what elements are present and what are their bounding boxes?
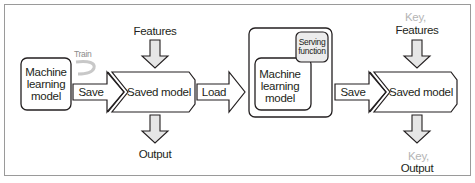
save-label-right: Save [336,86,370,98]
features-arrow-down-left [142,40,168,68]
ml-model-label-left: Machine learning model [21,66,71,102]
output-label-right: Output [387,162,447,174]
save-label-left: Save [74,86,108,98]
features-key-label: Key, [405,11,435,23]
train-label: Train [74,48,92,60]
features-label-left: Features [125,25,185,37]
train-arc-icon [76,62,94,74]
output-key-label: Key, [408,150,438,162]
load-label: Load [198,86,230,98]
output-arrow-down-left [142,115,168,143]
output-arrow-down-right [404,115,430,143]
output-label-left: Output [125,148,185,160]
features-arrow-down-right [404,40,430,68]
saved-model-label-left: Saved model [126,86,192,98]
serving-function-label: Serving function [296,38,328,56]
saved-model-label-right: Saved model [388,86,454,98]
ml-model-label-inner: Machine learning model [255,68,305,104]
features-label-right: Features [387,24,447,36]
